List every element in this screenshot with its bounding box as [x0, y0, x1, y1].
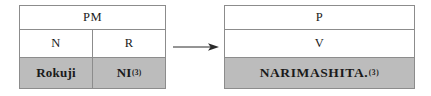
source-cell-ni: NI(3) — [93, 58, 165, 88]
source-cell-pm: PM — [20, 6, 165, 29]
target-table: P V NARIMASHITA.(3) — [224, 5, 415, 89]
source-cell-r: R — [93, 30, 165, 57]
source-row-category-span: PM — [20, 6, 165, 30]
source-row-category: N R — [20, 30, 165, 58]
target-cell-v: V — [225, 30, 414, 57]
target-cell-narimashita: NARIMASHITA.(3) — [225, 58, 414, 88]
source-form-ni-text: NI — [117, 65, 132, 81]
target-row-category-span: P — [225, 6, 414, 30]
source-table: PM N R Rokuji NI(3) — [19, 5, 166, 89]
target-cell-p: P — [225, 6, 414, 29]
rightwards-arrow-icon — [172, 38, 220, 56]
source-cell-rokuji: Rokuji — [20, 58, 93, 88]
source-form-rokuji-text: Rokuji — [36, 65, 76, 81]
target-row-category: V — [225, 30, 414, 58]
gloss-transformation-figure: PM N R Rokuji NI(3) P V — [0, 0, 431, 96]
target-form-narimashita-text: NARIMASHITA. — [260, 65, 369, 81]
source-row-form: Rokuji NI(3) — [20, 58, 165, 88]
target-row-form: NARIMASHITA.(3) — [225, 58, 414, 88]
source-cell-n: N — [20, 30, 93, 57]
